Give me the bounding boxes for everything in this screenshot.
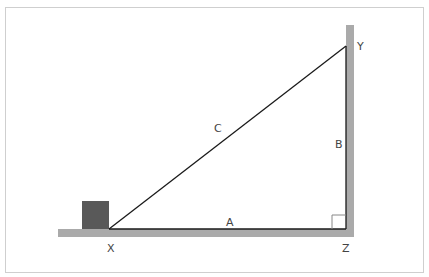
label-z: Z [342,242,350,255]
label-c: C [214,122,222,135]
label-x: X [107,242,115,255]
label-y: Y [356,40,364,53]
ground-bar [58,229,354,237]
block [82,201,109,229]
wall-bar [346,25,354,237]
hypotenuse-line [109,46,346,229]
right-angle-marker [332,215,346,229]
triangle-diagram: C A B X Y Z [0,0,429,277]
label-a: A [226,216,234,229]
label-b: B [335,138,343,151]
